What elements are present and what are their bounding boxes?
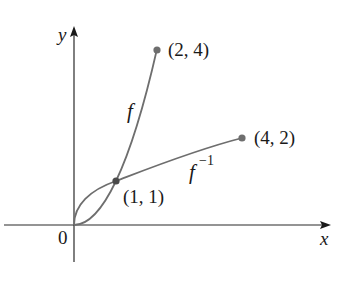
- inverse-function-diagram: y x 0 (2, 4) (4, 2) (1, 1) f f −1: [0, 0, 352, 284]
- svg-text:−1: −1: [199, 153, 214, 168]
- x-axis-label: x: [319, 228, 329, 249]
- y-axis-label: y: [56, 24, 67, 45]
- curve-label-f-inverse: f −1: [189, 153, 214, 184]
- curve-label-f: f: [127, 99, 136, 123]
- origin-label: 0: [58, 227, 68, 248]
- point-2-4: [153, 46, 160, 53]
- y-axis: [70, 26, 78, 262]
- x-axis: [4, 221, 331, 229]
- svg-text:f: f: [189, 160, 198, 184]
- point-4-2: [238, 134, 245, 141]
- point-label-1-1: (1, 1): [123, 186, 164, 208]
- point-1-1: [112, 177, 119, 184]
- curve-f-inverse: [74, 138, 242, 225]
- point-label-4-2: (4, 2): [254, 127, 295, 149]
- point-label-2-4: (2, 4): [168, 39, 209, 61]
